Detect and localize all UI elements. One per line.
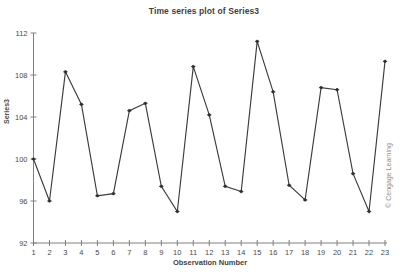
x-tick-label: 2 bbox=[47, 248, 51, 257]
y-axis: 9296100104108112 bbox=[15, 29, 37, 248]
x-tick-label: 20 bbox=[333, 248, 341, 257]
x-tick-label: 4 bbox=[79, 248, 83, 257]
x-tick-label: 1 bbox=[31, 248, 35, 257]
x-tick-label: 14 bbox=[237, 248, 245, 257]
y-tick-label: 112 bbox=[16, 29, 28, 38]
x-axis: 1234567891011121314151617181920212223 bbox=[31, 240, 389, 257]
x-tick-label: 12 bbox=[205, 248, 213, 257]
x-tick-label: 10 bbox=[173, 248, 181, 257]
x-tick-label: 3 bbox=[63, 248, 67, 257]
x-tick-label: 23 bbox=[381, 248, 389, 257]
x-tick-label: 22 bbox=[365, 248, 373, 257]
x-tick-label: 9 bbox=[159, 248, 163, 257]
x-tick-label: 15 bbox=[253, 248, 261, 257]
y-tick-label: 96 bbox=[19, 197, 27, 206]
x-tick-label: 19 bbox=[317, 248, 325, 257]
x-tick-label: 18 bbox=[301, 248, 309, 257]
x-tick-label: 16 bbox=[269, 248, 277, 257]
y-tick-label: 108 bbox=[15, 71, 28, 80]
plot-area: 9296100104108112 12345678910111213141516… bbox=[0, 0, 408, 272]
x-tick-label: 17 bbox=[285, 248, 293, 257]
x-tick-label: 11 bbox=[189, 248, 197, 257]
x-tick-label: 13 bbox=[221, 248, 229, 257]
series-line-series3 bbox=[34, 41, 386, 211]
time-series-chart: Time series plot of Series3 Series3 Obse… bbox=[0, 0, 408, 272]
x-tick-label: 21 bbox=[349, 248, 357, 257]
x-tick-label: 8 bbox=[143, 248, 147, 257]
y-tick-label: 100 bbox=[15, 155, 28, 164]
x-tick-label: 6 bbox=[111, 248, 115, 257]
x-tick-label: 7 bbox=[127, 248, 131, 257]
y-tick-label: 104 bbox=[15, 113, 28, 122]
y-tick-label: 92 bbox=[19, 239, 27, 248]
x-tick-label: 5 bbox=[95, 248, 99, 257]
series-markers-series3 bbox=[31, 40, 387, 213]
